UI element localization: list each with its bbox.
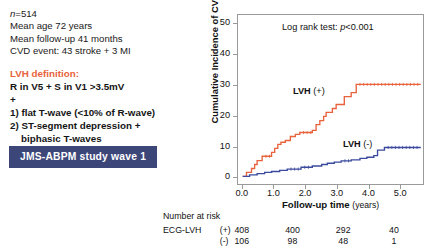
x-axis-label: Follow-up time (years) — [237, 199, 424, 210]
curve-label-lvh-positive: LVH (+) — [293, 86, 325, 96]
number-at-risk-row-label: ECG-LVH — [163, 225, 201, 235]
x-tick-label-2.0: 2.0 — [290, 188, 320, 198]
log-rank-value: <0.001 — [345, 22, 373, 32]
x-tick-label-1.0: 1.0 — [258, 188, 288, 198]
cohort-line-events: CVD event: 43 stroke + 3 MI — [10, 45, 196, 57]
series-lvh- — [243, 147, 421, 176]
x-tick-mark-5.0 — [400, 185, 401, 189]
y-tick-label-50: 50 — [196, 17, 230, 27]
lvh-criterion-2: 2) ST-segment depression + — [10, 119, 196, 132]
cohort-line-n: n=514 — [10, 8, 196, 20]
curve-label-lvh-negative-bold: LVH — [343, 139, 361, 149]
study-summary-panel: n=514 Mean age 72 years Mean follow-up 4… — [10, 8, 196, 145]
y-tick-label-30: 30 — [196, 79, 230, 89]
risk-cell: 292 — [328, 225, 358, 235]
x-tick-label-0.0: 0.0 — [227, 188, 257, 198]
lvh-criterion-1: 1) flat T-wave (<10% of R-wave) — [10, 106, 196, 119]
figure-root: n=514 Mean age 72 years Mean follow-up 4… — [0, 0, 434, 252]
curve-label-lvh-negative-rest: (-) — [361, 139, 373, 149]
curve-label-lvh-positive-rest: (+) — [311, 86, 325, 96]
y-tick-label-10: 10 — [196, 141, 230, 151]
risk-cell: 408 — [227, 225, 257, 235]
lvh-criterion-voltage: R in V5 + S in V1 >3.5mV — [10, 80, 196, 93]
series-lvh- — [243, 84, 421, 176]
cohort-line-followup: Mean follow-up 41 months — [10, 33, 196, 45]
y-tick-label-20: 20 — [196, 110, 230, 120]
number-at-risk-title: Number at risk — [163, 211, 220, 221]
x-axis-label-unit: (years) — [352, 200, 379, 210]
risk-cell: 48 — [328, 236, 358, 246]
risk-cell: 400 — [278, 225, 308, 235]
x-tick-mark-1.0 — [273, 185, 274, 189]
x-tick-mark-4.0 — [369, 185, 370, 189]
x-tick-label-5.0: 5.0 — [385, 188, 415, 198]
curve-label-lvh-positive-bold: LVH — [293, 86, 311, 96]
lvh-definition-heading: LVH definition: — [10, 67, 196, 80]
censor-marks-lvh- — [266, 83, 418, 158]
study-wave-badge: JMS-ABPM study wave 1 — [9, 146, 157, 168]
cohort-line-age: Mean age 72 years — [10, 20, 196, 32]
y-tick-label-0: 0 — [196, 171, 230, 181]
risk-cell: 98 — [278, 236, 308, 246]
risk-cell: 1 — [379, 236, 409, 246]
x-axis-label-text: Follow-up time — [282, 199, 350, 210]
number-at-risk-table: Number at risk ECG-LVH (+)40840029240(-)… — [163, 211, 434, 252]
x-tick-mark-2.0 — [305, 185, 306, 189]
plot-area — [237, 14, 424, 185]
x-tick-mark-3.0 — [337, 185, 338, 189]
x-tick-label-3.0: 3.0 — [322, 188, 352, 198]
curve-label-lvh-negative: LVH (-) — [343, 139, 372, 149]
lvh-criterion-2-cont: biphasic T-waves — [10, 132, 196, 145]
risk-cell: 40 — [379, 225, 409, 235]
y-tick-label-40: 40 — [196, 48, 230, 58]
x-tick-label-4.0: 4.0 — [354, 188, 384, 198]
log-rank-prefix: Log rank test: — [282, 22, 340, 32]
cohort-n-value: =514 — [15, 8, 37, 19]
log-rank-annotation: Log rank test: p<0.001 — [282, 22, 374, 32]
lvh-criterion-plus: + — [10, 93, 196, 106]
curves-svg — [238, 15, 423, 184]
x-tick-mark-0.0 — [242, 185, 243, 189]
risk-cell: 106 — [227, 236, 257, 246]
